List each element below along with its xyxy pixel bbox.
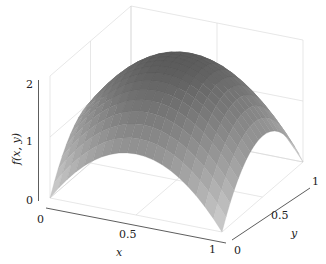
z-tick-0: 0 bbox=[26, 194, 33, 207]
surface-plot: 2 1 0 f(x, y) 0 0.5 1 x 0 0.5 1 y bbox=[0, 0, 326, 264]
y-tick-0: 0 bbox=[234, 244, 241, 257]
y-axis-label: y bbox=[290, 227, 298, 240]
x-tick-0: 0 bbox=[37, 213, 44, 226]
z-axis-label: f(x, y) bbox=[10, 133, 23, 166]
z-tick-2: 2 bbox=[26, 78, 33, 91]
x-tick-1: 1 bbox=[209, 243, 216, 256]
surface-mesh bbox=[50, 52, 303, 232]
y-tick-0.5: 0.5 bbox=[271, 209, 289, 222]
y-tick-1: 1 bbox=[312, 175, 319, 188]
x-tick-0.5: 0.5 bbox=[119, 228, 137, 241]
z-tick-1: 1 bbox=[26, 135, 33, 148]
x-axis-label: x bbox=[116, 246, 123, 259]
